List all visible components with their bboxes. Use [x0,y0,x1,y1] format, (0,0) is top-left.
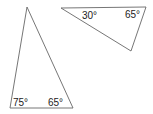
triangles-diagram: 75° 65° 30° 65° [0,0,153,114]
triangle-1-shape [10,7,73,108]
angle-label-30: 30° [82,10,97,21]
triangle-1: 75° 65° [10,7,73,108]
angle-label-65-b: 65° [125,9,140,20]
angle-label-65-a: 65° [48,97,63,108]
angle-label-75: 75° [13,97,28,108]
triangle-2: 30° 65° [61,7,146,51]
